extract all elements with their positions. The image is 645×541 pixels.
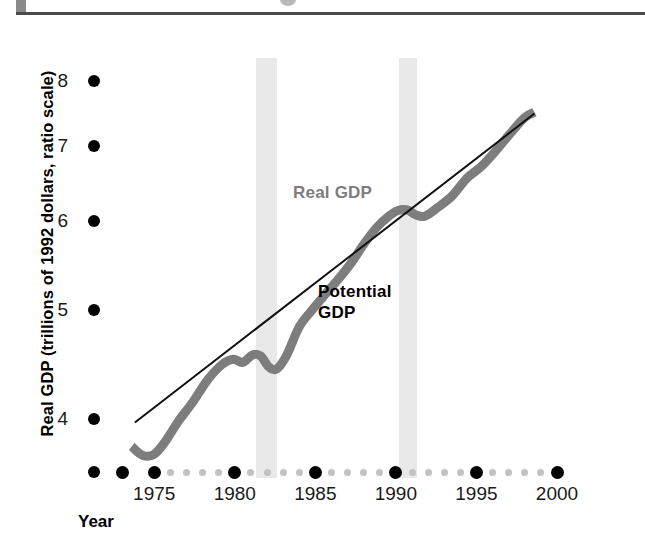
x-axis-tick-label: 1980 [200,483,270,505]
gdp-curves-svg [0,0,645,541]
x-axis-major-dot [116,466,129,479]
x-axis-minor-dot [280,469,287,476]
series-label-potential-gdp: Potential GDP [318,281,392,323]
x-axis-minor-dot [199,469,206,476]
x-axis-minor-dot [441,469,448,476]
plot-area [0,0,645,541]
x-axis-minor-dot [296,469,303,476]
x-axis-minor-dot [489,469,496,476]
x-axis-minor-dot [344,469,351,476]
x-axis-minor-dot [457,469,464,476]
x-axis-minor-dot [409,469,416,476]
series-label-real-gdp: Real GDP [293,183,372,203]
series-label-potential-gdp-line2: GDP [318,302,392,323]
x-axis-major-dot [148,466,161,479]
series-line-potential-gdp [135,114,535,423]
gdp-chart-figure: Real GDP (trillions of 1992 dollars, rat… [0,0,645,541]
x-axis-minor-dot [183,469,190,476]
x-axis-major-dot [470,466,483,479]
x-axis-tick-label: 1985 [280,483,350,505]
x-axis-tick-label: 1995 [441,483,511,505]
x-axis-major-dot [309,466,322,479]
x-axis-title: Year [78,512,114,532]
x-axis-tick-label: 1990 [361,483,431,505]
series-label-potential-gdp-line1: Potential [318,281,392,302]
x-axis-minor-dot [328,469,335,476]
x-axis-tick-label: 2000 [522,483,592,505]
x-axis-minor-dot [425,469,432,476]
x-axis-minor-dot [167,469,174,476]
x-axis-minor-dot [264,469,271,476]
x-axis-major-dot [551,466,564,479]
x-axis-tick-label: 1975 [119,483,189,505]
